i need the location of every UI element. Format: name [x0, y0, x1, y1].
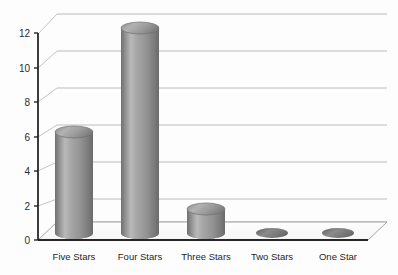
x-tick-label: Three Stars — [181, 251, 231, 262]
y-tick-label: 12 — [19, 28, 31, 39]
gridlines — [57, 14, 387, 222]
bar-five-stars[interactable] — [55, 126, 93, 239]
y-axis — [34, 33, 38, 240]
y-tick-label: 8 — [24, 97, 30, 108]
y-tick-label: 0 — [24, 235, 30, 246]
y-tick-labels: 12 10 8 6 4 2 0 — [19, 28, 31, 246]
depth-connectors — [38, 14, 57, 206]
y-tick-label: 4 — [24, 166, 30, 177]
bar-four-stars[interactable] — [121, 22, 159, 239]
bar-two-stars[interactable] — [256, 228, 288, 238]
y-tick-label: 6 — [24, 132, 30, 143]
y-tick-label: 10 — [19, 63, 31, 74]
x-tick-label: Four Stars — [118, 251, 163, 262]
chart-container: 12 10 8 6 4 2 0 — [0, 0, 398, 275]
x-tick-label: One Star — [319, 251, 357, 262]
x-tick-label: Five Stars — [53, 251, 96, 262]
bar-three-stars[interactable] — [187, 203, 225, 239]
y-tick-label: 2 — [24, 201, 30, 212]
bar-chart-3d: 12 10 8 6 4 2 0 — [0, 0, 398, 275]
bar-one-star[interactable] — [322, 228, 354, 238]
x-tick-labels: Five Stars Four Stars Three Stars Two St… — [53, 251, 357, 262]
x-tick-label: Two Stars — [251, 251, 293, 262]
